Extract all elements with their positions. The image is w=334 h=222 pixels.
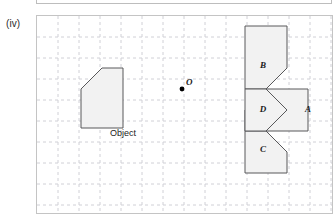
object-polygon <box>81 68 123 128</box>
previous-item-panel-edge <box>36 0 332 4</box>
centre-of-rotation: O <box>180 77 193 91</box>
object-label: Object <box>110 128 137 138</box>
grid-panel: Object ABCD O <box>36 15 333 214</box>
object-shape: Object <box>81 68 137 138</box>
image-label-c: C <box>260 144 267 154</box>
image-shape-b: B <box>245 26 287 89</box>
image-label-d: D <box>259 104 267 114</box>
image-shape-c: C <box>245 131 287 173</box>
item-label: (iv) <box>6 18 20 30</box>
figure-layer: Object ABCD O <box>37 16 332 213</box>
centre-of-rotation-label: O <box>186 77 193 87</box>
image-shapes: ABCD <box>245 26 311 173</box>
image-polygon-b <box>245 26 287 89</box>
image-label-a: A <box>304 104 311 114</box>
image-label-b: B <box>259 60 266 70</box>
centre-of-rotation-dot <box>180 87 185 92</box>
